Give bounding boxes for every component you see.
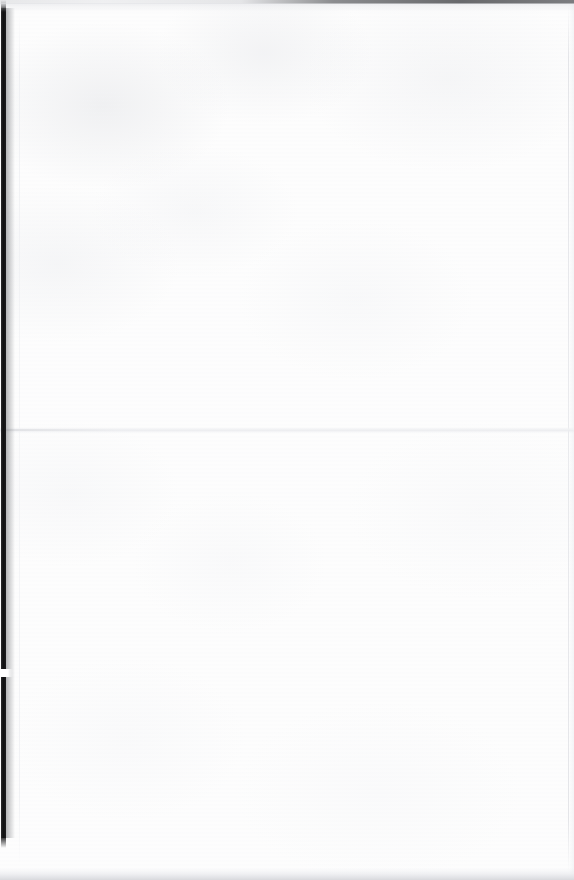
binding-gutter-strip bbox=[1, 8, 6, 838]
top-edge-shadow-falloff bbox=[0, 3, 574, 12]
left-inner-margin-line bbox=[19, 10, 20, 866]
scanned-page bbox=[0, 0, 574, 880]
binding-gutter-bottom-fade bbox=[1, 838, 6, 848]
gutter-notch bbox=[0, 669, 13, 677]
bottom-edge-shadow bbox=[0, 868, 574, 880]
page-content-area bbox=[22, 14, 550, 866]
right-edge-shadow bbox=[569, 0, 574, 880]
